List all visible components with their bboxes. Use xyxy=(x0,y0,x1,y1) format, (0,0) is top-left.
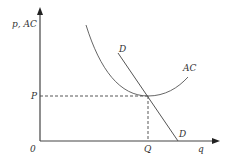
quantity-label: Q xyxy=(144,145,151,154)
ac-label: AC xyxy=(183,64,196,73)
cost-demand-chart: p, AC P 0 Q q D D AC xyxy=(0,0,230,160)
x-axis-arrow-icon xyxy=(212,138,220,144)
price-label: P xyxy=(31,92,37,101)
x-axis-label: q xyxy=(198,145,204,154)
origin-label: 0 xyxy=(30,145,36,154)
demand-label-bottom: D xyxy=(179,130,186,139)
y-axis-label: p, AC xyxy=(12,20,37,29)
demand-label-top: D xyxy=(119,45,126,54)
y-axis-arrow-icon xyxy=(37,7,43,15)
ac-curve xyxy=(86,25,188,96)
